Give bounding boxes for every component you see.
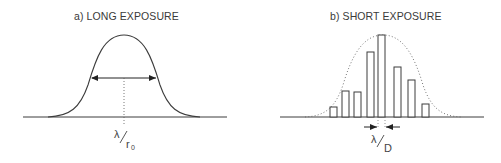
speckle-bar — [422, 104, 429, 117]
diagram-canvas: λ r 0 λ D — [0, 0, 501, 163]
speckle-bar — [330, 107, 337, 117]
short-exposure-plot: λ D — [280, 35, 484, 154]
lambda-symbol: λ — [114, 128, 120, 140]
D-symbol: D — [384, 142, 392, 154]
speckle-bar — [378, 35, 385, 117]
speckle-bar — [408, 80, 415, 117]
subscript-0: 0 — [131, 144, 135, 151]
speckle-bars — [330, 35, 429, 117]
gaussian-profile — [48, 35, 200, 117]
label-lambda-over-D: λ D — [371, 133, 392, 154]
lambda-symbol-b: λ — [371, 133, 377, 145]
speckle-bar — [367, 52, 374, 117]
label-lambda-over-r0: λ r 0 — [114, 128, 135, 151]
speckle-bar — [354, 92, 361, 117]
long-exposure-plot: λ r 0 — [23, 35, 227, 151]
speckle-bar — [342, 91, 349, 117]
r-symbol: r — [126, 138, 130, 150]
speckle-bar — [394, 67, 401, 117]
